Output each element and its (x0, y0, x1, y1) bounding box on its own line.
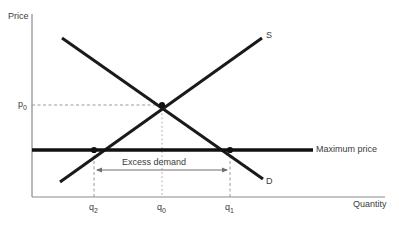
x-tick-label-q0: q0 (157, 203, 166, 214)
q2-subscript: 2 (94, 207, 98, 214)
x-tick-label-q1: q1 (225, 203, 234, 214)
p0-subscript: 0 (23, 104, 27, 111)
x-axis-label: Quantity (353, 200, 387, 209)
quantity-demanded-point-marker (227, 147, 233, 153)
arrowhead-left-icon (96, 167, 102, 172)
excess-demand-label: Excess demand (122, 158, 186, 167)
arrowhead-right-icon (222, 167, 228, 172)
chart-canvas (0, 0, 399, 227)
x-tick-label-q2: q2 (89, 203, 98, 214)
quantity-supplied-point-marker (91, 147, 97, 153)
maximum-price-label: Maximum price (316, 145, 377, 154)
equilibrium-point-marker (159, 102, 165, 108)
supply-curve-label: S (266, 31, 272, 40)
q1-subscript: 1 (230, 207, 234, 214)
q0-subscript: 0 (162, 207, 166, 214)
y-tick-label-p0: p0 (18, 100, 27, 111)
y-axis-label: Price (8, 12, 29, 21)
demand-curve-label: D (266, 177, 273, 186)
supply-demand-price-ceiling-diagram: Price Quantity p0 S D Maximum price Exce… (0, 0, 399, 227)
